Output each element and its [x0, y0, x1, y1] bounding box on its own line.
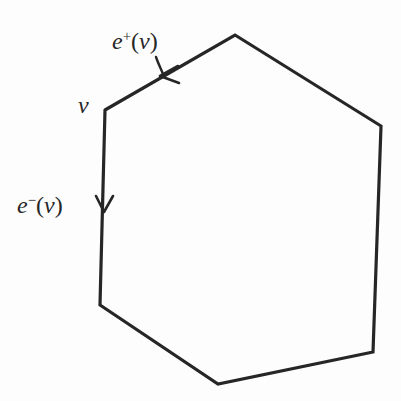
- edge-label-e-plus-paren-open: (: [131, 28, 139, 54]
- edge-label-e-plus-paren-close: ): [150, 28, 158, 54]
- edge-label-e-minus-base: e: [17, 192, 28, 218]
- edge-label-e-minus: e−(v): [17, 192, 63, 217]
- arrow-e-minus-icon: [96, 196, 113, 212]
- hexagon-outline: [100, 35, 381, 384]
- edge-label-e-plus-arg: v: [139, 28, 150, 54]
- edge-label-e-minus-arg: v: [44, 192, 55, 218]
- hexagon-diagram: e+(v) e−(v) v: [0, 0, 401, 401]
- edge-label-e-plus-sign: +: [123, 28, 131, 44]
- hexagon-path: [100, 35, 381, 384]
- edge-label-e-plus-base: e: [112, 28, 123, 54]
- edge-label-e-minus-sign: −: [28, 192, 36, 208]
- edge-label-e-minus-paren-close: ): [55, 192, 63, 218]
- vertex-label-v: v: [78, 93, 89, 117]
- edge-label-e-plus: e+(v): [112, 28, 158, 53]
- edge-label-e-minus-paren-open: (: [36, 192, 44, 218]
